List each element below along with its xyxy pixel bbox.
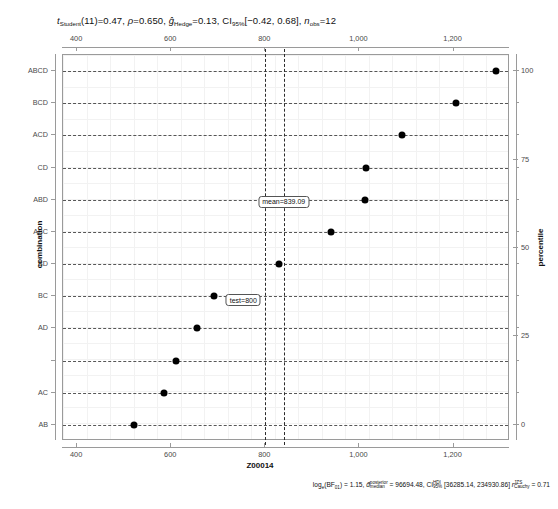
y-tick-mark [51, 199, 55, 200]
y2-tick-label: 25 [521, 331, 529, 340]
title-n-value: =12 [320, 15, 336, 26]
y2-major-tick [513, 159, 518, 160]
y-tick-label-acd: ACD [0, 130, 48, 139]
y-axis-line [55, 54, 56, 440]
y2-tick-mark [516, 199, 519, 200]
plot-panel: mean=839.09test=800 [62, 54, 509, 440]
row-gridline [63, 135, 508, 136]
y2-tick-mark [516, 263, 519, 264]
y2-major-tick [513, 424, 518, 425]
x-tick-mark [453, 443, 454, 447]
caption-ci-symbol: CI [426, 481, 433, 488]
y2-axis-title: percentile [536, 203, 545, 293]
data-point[interactable] [161, 389, 168, 396]
y2-tick-label: 100 [521, 66, 533, 75]
data-point[interactable] [398, 132, 405, 139]
title-rho-value: =0.650 [133, 15, 163, 26]
bg-gridline-h [63, 119, 508, 120]
y-tick-mark [51, 392, 55, 393]
test-annotation[interactable]: test=800 [226, 294, 261, 306]
x-tick-mark [453, 47, 454, 51]
y2-tick-mark [516, 231, 519, 232]
title-g-value: =0.13 [192, 15, 217, 26]
background-grid [63, 55, 508, 439]
caption-ci-sub: 95% [433, 485, 442, 490]
row-gridline [63, 71, 508, 72]
chart-caption: loge(BF01) = 1.15, d̂posteriormedian = 9… [313, 481, 558, 490]
row-gridline [63, 296, 508, 297]
title-t-subscript: Student [60, 20, 81, 27]
y2-tick-mark [516, 295, 519, 296]
data-point[interactable] [363, 164, 370, 171]
caption-r-value: = 0.71 [530, 481, 550, 488]
mean-annotation[interactable]: mean=839.09 [258, 196, 309, 208]
bg-gridline-h [63, 151, 508, 152]
y-tick-mark [51, 167, 55, 168]
x-tick-label: 1,000 [349, 34, 368, 43]
y2-tick-mark [516, 360, 519, 361]
y-tick-mark [51, 327, 55, 328]
x-tick-label: 400 [70, 450, 82, 459]
x-axis-line [62, 447, 509, 448]
data-point[interactable] [172, 357, 179, 364]
title-ci-value: [−0.42, 0.68] [244, 15, 298, 26]
y-tick-label-ad: AD [0, 323, 48, 332]
data-point[interactable] [452, 100, 459, 107]
title-g-subscript: Hedge [174, 20, 192, 27]
y2-tick-label: 75 [521, 154, 529, 163]
data-point[interactable] [194, 325, 201, 332]
y-tick-label-ac: AC [0, 387, 48, 396]
y2-tick-mark [516, 327, 519, 328]
y-tick-mark [51, 424, 55, 425]
bg-gridline-h [63, 375, 508, 376]
y-tick-mark [51, 295, 55, 296]
y-tick-mark [51, 102, 55, 103]
row-gridline [63, 328, 508, 329]
y2-tick-mark [516, 102, 519, 103]
data-point[interactable] [328, 228, 335, 235]
x-tick-label: 400 [70, 34, 82, 43]
y-tick-label-ab: AB [0, 419, 48, 428]
caption-r-sub: Cauchy [514, 485, 530, 490]
bg-gridline-h [63, 55, 508, 56]
y-tick-mark [51, 70, 55, 71]
x-tick-label: 600 [164, 34, 176, 43]
x-tick-mark [358, 443, 359, 447]
bg-gridline-h [63, 183, 508, 184]
y-tick-mark [51, 231, 55, 232]
caption-r-script: JZSCauchy [514, 481, 530, 489]
y-tick-label-abcd: ABCD [0, 66, 48, 75]
y2-tick-label: 50 [521, 243, 529, 252]
title-n-subscript: obs [310, 20, 320, 27]
x-tick-mark [264, 443, 265, 447]
y-tick-mark [51, 360, 55, 361]
caption-bf-value: = 1.15, [342, 481, 366, 488]
chart-canvas: tStudent(11)=0.47, ρ=0.650, ĝHedge=0.13,… [0, 0, 558, 509]
reference-line-mean [284, 49, 285, 445]
bg-gridline-h [63, 311, 508, 312]
chart-title: tStudent(11)=0.47, ρ=0.650, ĝHedge=0.13,… [57, 15, 336, 27]
x-tick-label: 800 [258, 450, 270, 459]
data-point[interactable] [362, 196, 369, 203]
bg-gridline-h [63, 407, 508, 408]
x-axis-line [62, 47, 509, 48]
caption-log-label: log [313, 481, 322, 488]
row-gridline [63, 393, 508, 394]
row-gridline [63, 264, 508, 265]
bg-gridline-h [63, 343, 508, 344]
row-gridline [63, 103, 508, 104]
row-gridline [63, 168, 508, 169]
x-tick-mark [76, 443, 77, 447]
y-tick-label-bcd: BCD [0, 98, 48, 107]
title-ci-symbol: CI [222, 15, 232, 26]
data-point[interactable] [276, 261, 283, 268]
y2-major-tick [513, 70, 518, 71]
bg-gridline-h [63, 87, 508, 88]
data-point[interactable] [492, 68, 499, 75]
caption-d-script: posteriormedian [370, 481, 388, 489]
y2-major-tick [513, 247, 518, 248]
data-point[interactable] [210, 293, 217, 300]
data-point[interactable] [130, 421, 137, 428]
y-tick-mark [51, 134, 55, 135]
bg-gridline-h [63, 279, 508, 280]
